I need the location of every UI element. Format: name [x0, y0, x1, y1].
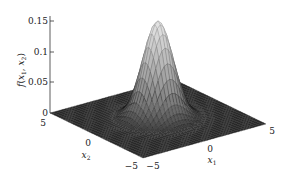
z-tick-label: 0.1 [34, 47, 48, 57]
z-tick-label: 0 [42, 108, 48, 118]
z-tick-label: 0.15 [28, 16, 48, 26]
x1-axis-label: x1 [208, 155, 217, 166]
x1-tick-label: −5 [146, 161, 160, 171]
x2-tick-label: −5 [125, 161, 139, 171]
surface-mesh [50, 21, 266, 158]
x2-tick-label: 5 [40, 118, 46, 128]
z-tick-label: 0.05 [28, 77, 48, 87]
x1-tick-label: 5 [269, 126, 275, 136]
x2-axis-label: x2 [82, 150, 91, 161]
x2-tick-label: 0 [85, 138, 91, 148]
z-axis: 0.15 0.1 0.05 0 f(x1, x2) [16, 16, 54, 118]
z-axis-label: f(x1, x2) [16, 53, 27, 88]
gaussian-surface-chart: 0.15 0.1 0.05 0 f(x1, x2) 5 0 −5 x2 −5 0… [0, 0, 283, 180]
x1-tick-label: 0 [207, 144, 213, 154]
